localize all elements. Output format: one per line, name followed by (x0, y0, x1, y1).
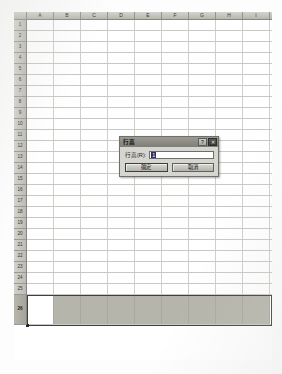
cell-H26[interactable] (216, 295, 243, 324)
cell-I7[interactable] (243, 86, 270, 96)
cell-H9[interactable] (216, 108, 243, 118)
cell-C9[interactable] (81, 108, 108, 118)
cell-B13[interactable] (54, 152, 81, 162)
cell-C26[interactable] (81, 295, 108, 324)
cell-E2[interactable] (135, 31, 162, 41)
cell-G17[interactable] (189, 196, 216, 206)
cell-E16[interactable] (135, 185, 162, 195)
cell-I23[interactable] (243, 262, 270, 272)
cell-G23[interactable] (189, 262, 216, 272)
cell-I13[interactable] (243, 152, 270, 162)
column-header-g[interactable]: G (189, 12, 216, 19)
cell-I19[interactable] (243, 218, 270, 228)
cell-B22[interactable] (54, 251, 81, 261)
cell-A19[interactable] (27, 218, 54, 228)
cell-I3[interactable] (243, 42, 270, 52)
row-header-25[interactable]: 25 (14, 284, 26, 295)
cell-F8[interactable] (162, 97, 189, 107)
cell-D7[interactable] (108, 86, 135, 96)
cell-G18[interactable] (189, 207, 216, 217)
row-header-4[interactable]: 4 (14, 53, 26, 64)
cell-I11[interactable] (243, 130, 270, 140)
cell-C20[interactable] (81, 229, 108, 239)
row-header-3[interactable]: 3 (14, 42, 26, 53)
row-height-input[interactable]: 1 (149, 151, 214, 159)
cell-D22[interactable] (108, 251, 135, 261)
cell-H8[interactable] (216, 97, 243, 107)
row-header-8[interactable]: 8 (14, 97, 26, 108)
cell-B1[interactable] (54, 20, 81, 30)
cell-G8[interactable] (189, 97, 216, 107)
cell-I21[interactable] (243, 240, 270, 250)
cell-G3[interactable] (189, 42, 216, 52)
cell-H21[interactable] (216, 240, 243, 250)
column-header-f[interactable]: F (162, 12, 189, 19)
cell-E21[interactable] (135, 240, 162, 250)
cell-B7[interactable] (54, 86, 81, 96)
cell-F3[interactable] (162, 42, 189, 52)
cell-C22[interactable] (81, 251, 108, 261)
cell-H16[interactable] (216, 185, 243, 195)
cell-E17[interactable] (135, 196, 162, 206)
cell-H1[interactable] (216, 20, 243, 30)
row-header-2[interactable]: 2 (14, 31, 26, 42)
cell-C8[interactable] (81, 97, 108, 107)
cell-C12[interactable] (81, 141, 108, 151)
cell-A10[interactable] (27, 119, 54, 129)
cell-I26[interactable] (243, 295, 270, 324)
cell-A23[interactable] (27, 262, 54, 272)
cell-E4[interactable] (135, 53, 162, 63)
cell-C7[interactable] (81, 86, 108, 96)
cell-G2[interactable] (189, 31, 216, 41)
close-icon[interactable]: ✕ (208, 138, 217, 146)
cell-G25[interactable] (189, 284, 216, 294)
cell-A1[interactable] (27, 20, 54, 30)
cell-F24[interactable] (162, 273, 189, 283)
cell-B2[interactable] (54, 31, 81, 41)
cell-F18[interactable] (162, 207, 189, 217)
row-header-10[interactable]: 10 (14, 119, 26, 130)
cell-A14[interactable] (27, 163, 54, 173)
cell-I8[interactable] (243, 97, 270, 107)
cell-D3[interactable] (108, 42, 135, 52)
row-header-26[interactable]: 26 (14, 295, 26, 325)
cell-I18[interactable] (243, 207, 270, 217)
cell-H14[interactable] (216, 163, 243, 173)
cell-H15[interactable] (216, 174, 243, 184)
cell-I20[interactable] (243, 229, 270, 239)
cell-H6[interactable] (216, 75, 243, 85)
cell-D24[interactable] (108, 273, 135, 283)
cell-C3[interactable] (81, 42, 108, 52)
cell-E1[interactable] (135, 20, 162, 30)
cell-G7[interactable] (189, 86, 216, 96)
cell-G6[interactable] (189, 75, 216, 85)
cell-A7[interactable] (27, 86, 54, 96)
cell-I14[interactable] (243, 163, 270, 173)
cell-I10[interactable] (243, 119, 270, 129)
cell-D4[interactable] (108, 53, 135, 63)
cell-G1[interactable] (189, 20, 216, 30)
row-header-9[interactable]: 9 (14, 108, 26, 119)
cell-C10[interactable] (81, 119, 108, 129)
cell-F1[interactable] (162, 20, 189, 30)
row-header-7[interactable]: 7 (14, 86, 26, 97)
cell-B17[interactable] (54, 196, 81, 206)
cell-I4[interactable] (243, 53, 270, 63)
cell-C4[interactable] (81, 53, 108, 63)
cell-A5[interactable] (27, 64, 54, 74)
cell-D26[interactable] (108, 295, 135, 324)
row-header-13[interactable]: 13 (14, 152, 26, 163)
cell-E10[interactable] (135, 119, 162, 129)
cell-E7[interactable] (135, 86, 162, 96)
cell-A8[interactable] (27, 97, 54, 107)
row-header-11[interactable]: 11 (14, 130, 26, 141)
cell-B6[interactable] (54, 75, 81, 85)
cell-B3[interactable] (54, 42, 81, 52)
cell-E8[interactable] (135, 97, 162, 107)
cell-I6[interactable] (243, 75, 270, 85)
cell-D25[interactable] (108, 284, 135, 294)
cell-A22[interactable] (27, 251, 54, 261)
cell-C18[interactable] (81, 207, 108, 217)
cell-D9[interactable] (108, 108, 135, 118)
cell-I25[interactable] (243, 284, 270, 294)
